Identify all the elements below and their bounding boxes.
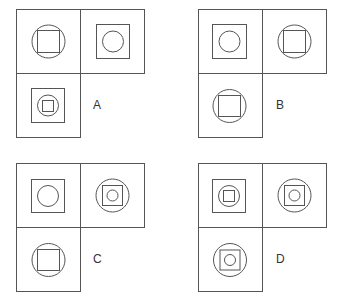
circle-shape (38, 186, 59, 207)
circle-shape (213, 90, 246, 123)
square-shape (38, 250, 60, 271)
option-d-figure (199, 164, 327, 292)
option-d-frame (199, 164, 327, 292)
square-shape (103, 186, 123, 206)
option-a-frame (17, 10, 145, 138)
square-shape (285, 186, 305, 206)
square-shape (43, 101, 54, 112)
circle-shape (107, 190, 118, 201)
circle-shape (219, 31, 240, 52)
circle-shape (32, 244, 65, 277)
circle-shape (278, 25, 311, 58)
option-a-figure (17, 10, 145, 138)
circle-shape (214, 244, 247, 277)
option-c-cell-top-left (32, 180, 65, 213)
square-shape (38, 31, 60, 53)
square-shape (224, 191, 235, 202)
option-b-cell-top-right (278, 25, 311, 58)
square-shape (284, 31, 306, 53)
square-shape (32, 180, 65, 213)
option-b-cell-bottom-left (213, 90, 246, 123)
option-c-cell-top-right (96, 179, 129, 212)
square-shape (213, 180, 246, 213)
square-shape (32, 89, 65, 123)
option-b-label: B (276, 98, 284, 112)
option-d-label: D (276, 252, 285, 266)
option-a-label: A (93, 98, 101, 112)
circle-shape (103, 31, 124, 52)
option-c-frame (17, 164, 145, 292)
option-c-cell-bottom-left (32, 244, 65, 277)
circle-shape (289, 190, 300, 201)
circle-shape (38, 95, 59, 116)
option-a-cell-bottom-left (32, 89, 65, 123)
square-shape (213, 25, 247, 59)
option-b-cell-top-left (213, 25, 247, 59)
circle-shape (225, 255, 236, 266)
option-c-figure (17, 164, 145, 292)
option-a-cell-top-left (32, 25, 65, 58)
square-shape (97, 25, 130, 59)
circle-shape (278, 179, 311, 212)
circle-shape (32, 25, 65, 58)
option-b-figure (199, 10, 327, 138)
option-b-frame (199, 10, 327, 138)
option-d-cell-top-left (213, 180, 246, 213)
option-d-cell-bottom-left (214, 244, 247, 277)
circle-shape (96, 179, 129, 212)
option-c-label: C (93, 252, 102, 266)
square-shape (219, 96, 241, 117)
option-d-cell-top-right (278, 179, 311, 212)
circle-shape (219, 186, 240, 207)
option-a-cell-top-right (97, 25, 130, 59)
square-shape (220, 250, 240, 270)
diagram-canvas (0, 0, 338, 305)
